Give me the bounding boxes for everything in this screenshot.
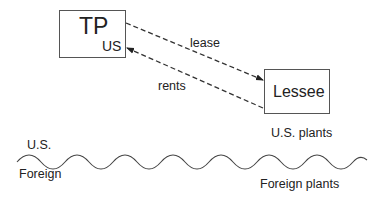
tp-label: TP (79, 15, 108, 38)
lease-edge-label: lease (190, 37, 220, 50)
us-plants-label: U.S. plants (271, 127, 332, 140)
lease-arrow (126, 23, 263, 80)
foreign-plants-label: Foreign plants (260, 178, 339, 191)
us-region-label: U.S. (27, 139, 51, 152)
border-wave-line (17, 155, 367, 169)
tp-node: TP US (59, 10, 126, 58)
foreign-region-label: Foreign (19, 168, 61, 181)
tp-subscript: US (102, 39, 121, 53)
rents-edge-label: rents (158, 80, 186, 93)
lessee-node: Lessee (264, 69, 330, 114)
lessee-label: Lessee (273, 84, 325, 100)
rents-arrow (127, 48, 263, 108)
